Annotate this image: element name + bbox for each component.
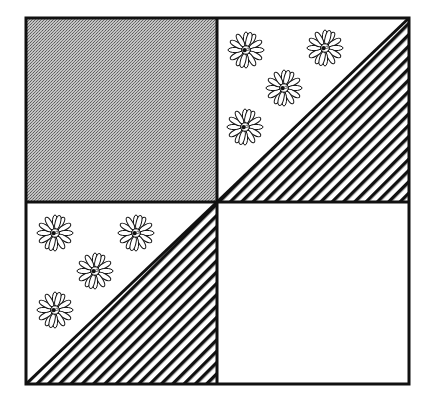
block-top-left-gray bbox=[26, 18, 217, 202]
block-bottom-right-white bbox=[217, 202, 409, 384]
block-top-right-hst bbox=[217, 18, 409, 202]
quilt-block-diagram bbox=[0, 0, 431, 403]
block-bottom-left-hst bbox=[26, 202, 217, 384]
